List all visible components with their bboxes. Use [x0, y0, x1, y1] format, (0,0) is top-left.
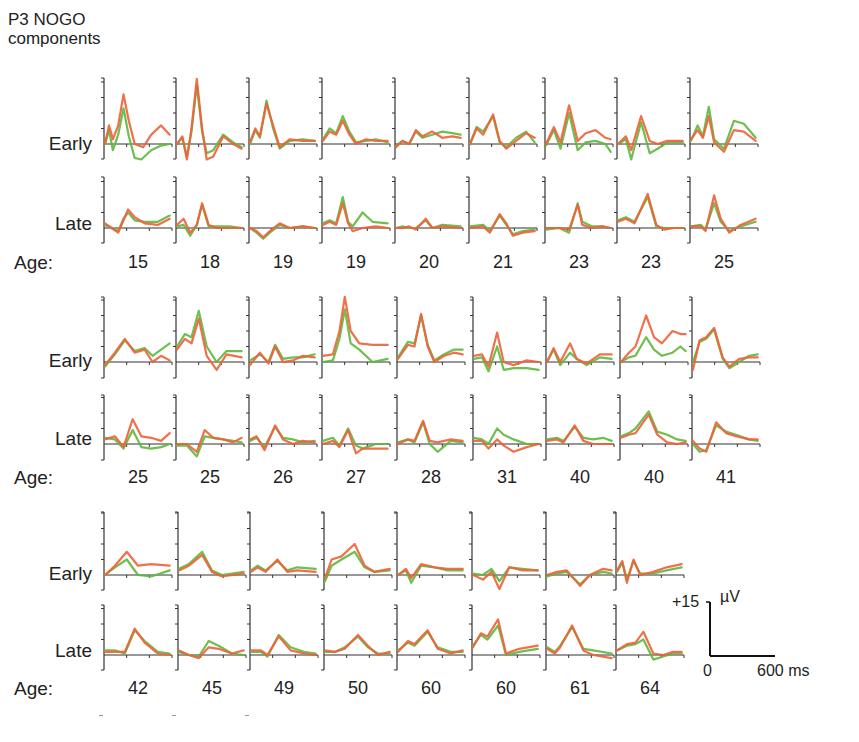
panel-early-g2-4 [319, 297, 390, 378]
panel-early-g2-1 [101, 297, 172, 378]
age-value: 28 [421, 467, 441, 488]
age-value: 19 [273, 252, 293, 273]
panel-late-g1-9 [687, 177, 758, 243]
red-trace [323, 203, 388, 231]
panel-early-g2-2 [173, 297, 244, 378]
red-trace [617, 560, 682, 583]
panel-late-g1-1 [101, 177, 172, 243]
panel-early-g1-3 [246, 78, 317, 159]
age-value: 40 [570, 467, 590, 488]
panel-early-g3-3 [247, 512, 318, 590]
red-trace [105, 339, 170, 365]
green-trace [691, 107, 756, 149]
panel-early-g2-8 [617, 297, 688, 378]
scale-time-zero: 0 [703, 662, 712, 680]
red-trace [398, 421, 463, 444]
red-trace [473, 567, 538, 589]
panel-late-g2-8 [617, 395, 688, 460]
panel-early-g3-1 [101, 512, 172, 590]
panel-late-g1-6 [466, 177, 537, 243]
age-value: 25 [200, 467, 220, 488]
panel-early-g2-3 [246, 297, 317, 378]
age-value: 21 [493, 252, 513, 273]
green-trace [323, 197, 388, 226]
panel-early-g1-7 [542, 78, 613, 159]
age-value: 23 [569, 252, 589, 273]
panel-late-g2-4 [319, 395, 390, 460]
age-value: 64 [640, 678, 660, 699]
green-trace [177, 205, 242, 236]
panel-early-g3-6 [469, 512, 540, 590]
age-value: 60 [496, 678, 516, 699]
panel-early-g3-7 [543, 512, 614, 590]
age-value: 60 [421, 678, 441, 699]
row-label-early: Early [0, 350, 92, 372]
panel-late-g2-9 [689, 395, 760, 460]
panel-late-g1-5 [392, 177, 463, 243]
green-trace [177, 85, 242, 156]
row-label-late: Late [0, 428, 92, 450]
panel-early-g2-9 [689, 297, 760, 378]
age-value: 26 [273, 467, 293, 488]
green-trace [547, 350, 612, 366]
red-trace [250, 425, 315, 450]
red-trace [250, 223, 315, 237]
age-value: 18 [200, 252, 220, 273]
green-trace [398, 422, 463, 452]
panel-late-g3-7 [543, 605, 614, 670]
green-trace [325, 552, 390, 581]
stray-mark [172, 715, 176, 716]
panel-early-g1-9 [687, 78, 758, 159]
age-value: 42 [128, 678, 148, 699]
red-trace [398, 630, 463, 653]
age-value: 15 [128, 252, 148, 273]
row-label-early: Early [0, 563, 92, 585]
row-label-age: Age: [14, 678, 53, 700]
stray-mark [99, 715, 103, 716]
panel-late-g2-1 [101, 395, 172, 460]
panel-late-g3-5 [394, 605, 465, 670]
panel-early-g1-4 [319, 78, 390, 159]
age-value: 23 [641, 252, 661, 273]
green-trace [323, 116, 388, 142]
panel-early-g3-2 [175, 512, 246, 590]
scale-bar: +15 µV 0 600 ms [670, 590, 830, 690]
panel-early-g3-4 [321, 512, 392, 590]
panel-late-g1-8 [614, 177, 685, 243]
red-trace [547, 626, 612, 659]
red-trace [547, 343, 612, 363]
age-value: 19 [346, 252, 366, 273]
panel-early-g1-5 [392, 78, 463, 159]
red-trace [250, 104, 315, 147]
panel-early-g3-8 [613, 512, 684, 590]
panel-late-g2-3 [246, 395, 317, 460]
panel-early-g1-8 [614, 78, 685, 160]
panel-early-g1-1 [101, 78, 172, 160]
red-trace [691, 195, 756, 232]
red-trace [325, 544, 390, 578]
red-trace [691, 116, 756, 152]
green-trace [105, 430, 170, 449]
red-trace [177, 79, 242, 160]
red-trace [618, 194, 683, 230]
panel-early-g3-5 [394, 512, 465, 590]
panel-late-g2-7 [543, 395, 614, 460]
red-trace [105, 629, 170, 655]
row-label-age: Age: [14, 252, 53, 274]
green-trace [547, 572, 612, 584]
red-trace [251, 560, 316, 572]
age-value: 25 [714, 252, 734, 273]
red-trace [693, 422, 758, 452]
panel-late-g3-4 [321, 605, 392, 670]
panel-late-g3-3 [247, 605, 318, 670]
age-value: 40 [644, 467, 664, 488]
panel-late-g2-5 [394, 395, 465, 460]
age-value: 20 [419, 252, 439, 273]
panel-early-g2-6 [470, 297, 541, 378]
row-label-age: Age: [14, 467, 53, 489]
red-trace [105, 419, 170, 447]
panel-early-g2-5 [394, 297, 465, 378]
panel-early-g1-2 [173, 78, 244, 160]
red-trace [105, 94, 170, 147]
age-value: 25 [128, 467, 148, 488]
